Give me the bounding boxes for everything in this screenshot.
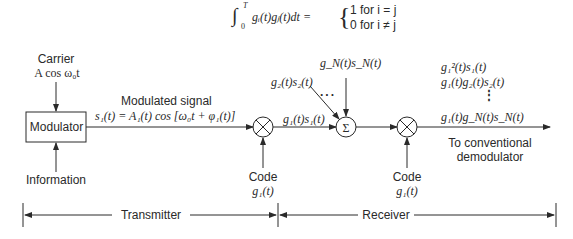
brace: { [338, 2, 350, 32]
output-destination-line1: To conventional [430, 136, 550, 150]
input-gN-sN: g_N(t)s_N(t) [320, 56, 381, 71]
more-inputs-ellipsis: · · · [320, 88, 334, 102]
information-label: Information [20, 173, 92, 187]
summer-symbol: Σ [343, 121, 350, 135]
carrier-label: Carrier [30, 52, 82, 66]
transmitter-code-label: Code [243, 170, 283, 184]
mixer1-output-label: g₁(t)s₁(t) [283, 112, 325, 127]
integral-upper: T [243, 1, 247, 10]
input-g2-s2: g₂(t)s₂(t) [271, 75, 313, 90]
receiver-section-label: Receiver [358, 208, 414, 222]
integral-lower: 0 [241, 22, 245, 31]
output-term-ellipsis: ⋮ [483, 88, 495, 102]
integrand: gᵢ(t)gⱼ(t)dt = [252, 10, 311, 25]
carrier-expression: A cos ω₀t [22, 66, 92, 81]
receiver-code-label: Code [387, 170, 427, 184]
transmitter-code-expression: g₁(t) [243, 184, 283, 199]
transmitter-section-label: Transmitter [112, 208, 190, 222]
modulator-block: Modulator [26, 120, 87, 134]
receiver-code-expression: g₁(t) [387, 184, 427, 199]
case-not-equal: 0 for i ≠ j [350, 18, 396, 32]
modulated-signal-expression: s₁(t) = A₁(t) cos [ω₀t + φ₁(t)] [95, 109, 235, 124]
output-destination-line2: demodulator [430, 150, 550, 164]
integral-sign: ∫ [232, 4, 237, 27]
output-term-N: g₁(t)g_N(t)s_N(t) [441, 110, 524, 125]
output-term-1: g₁²(t)s₁(t) [441, 60, 486, 75]
modulated-signal-label: Modulated signal [121, 94, 212, 108]
case-equal: 1 for i = j [350, 3, 396, 17]
